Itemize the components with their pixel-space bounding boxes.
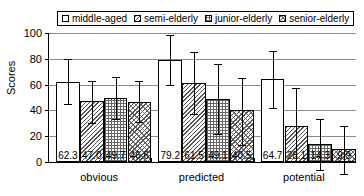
bar-value-label: 40.5 — [230, 150, 254, 161]
x-axis-label-obvious: obvious — [48, 172, 150, 183]
y-tick-mark — [45, 162, 49, 163]
error-bar-potential-junior-elderly — [320, 119, 321, 169]
y-axis-label: Scores — [6, 61, 17, 95]
error-bar-cap-upper — [269, 51, 277, 52]
error-bar-cap-upper — [292, 88, 300, 89]
error-bar-potential-middle-aged — [273, 51, 274, 108]
y-tick-label: 60 — [30, 79, 42, 90]
error-bar-cap-upper — [340, 126, 348, 127]
legend-item-semi-elderly[interactable]: semi-elderly — [134, 14, 198, 24]
error-bar-cap-upper — [214, 64, 222, 65]
legend-item-label: semi-elderly — [144, 14, 198, 24]
error-bar-obvious-senior-elderly — [139, 81, 140, 122]
error-bar-obvious-junior-elderly — [116, 77, 117, 120]
chart-legend: middle-agedsemi-elderlyjunior-elderlysen… — [57, 11, 354, 26]
error-bar-cap-upper — [88, 81, 96, 82]
error-bar-cap-lower — [88, 123, 96, 124]
legend-swatch-icon — [62, 15, 69, 22]
error-bar-cap-lower — [112, 119, 120, 120]
error-bar-cap-lower — [135, 122, 143, 123]
bar-value-label: 46.6 — [128, 150, 152, 161]
x-axis-separator — [151, 158, 152, 162]
bar-value-label: 79.2 — [158, 150, 182, 161]
legend-item-middle-aged[interactable]: middle-aged — [62, 14, 127, 24]
bar-value-label: 9.9 — [332, 150, 356, 161]
y-tick-label: 100 — [24, 28, 42, 39]
gridline — [49, 59, 356, 60]
error-bar-cap-lower — [269, 108, 277, 109]
plot-area: 020406080100 62.347.049.746.679.261.549.… — [48, 33, 356, 163]
error-bar-cap-upper — [135, 81, 143, 82]
bar-value-label: 49.7 — [104, 150, 128, 161]
bar-value-label: 47.0 — [80, 150, 104, 161]
error-bar-cap-lower — [64, 104, 72, 105]
bar-value-label: 61.5 — [182, 150, 206, 161]
error-bar-predicted-middle-aged — [170, 35, 171, 85]
error-bar-cap-lower — [292, 162, 300, 163]
legend-item-label: junior-elderly — [215, 14, 272, 24]
error-bar-cap-lower — [166, 85, 174, 86]
bar-value-label: 28.1 — [285, 150, 309, 161]
bar-chart: middle-agedsemi-elderlyjunior-elderlysen… — [0, 0, 364, 196]
bar-value-label: 62.3 — [56, 150, 80, 161]
x-axis-separator — [254, 158, 255, 162]
legend-swatch-icon — [279, 15, 286, 22]
error-bar-cap-lower — [214, 134, 222, 135]
error-bar-cap-upper — [112, 77, 120, 78]
y-tick-label: 0 — [36, 157, 42, 168]
x-axis-label-predicted: predicted — [150, 172, 252, 183]
error-bar-cap-upper — [238, 78, 246, 79]
y-tick-label: 20 — [30, 131, 42, 142]
x-axis-label-potential: potential — [253, 172, 355, 183]
bar-value-label: 14.3 — [308, 150, 332, 161]
bar-value-label: 64.7 — [261, 150, 285, 161]
legend-item-junior-elderly[interactable]: junior-elderly — [205, 14, 272, 24]
legend-item-label: middle-aged — [72, 14, 127, 24]
error-bar-cap-upper — [190, 52, 198, 53]
error-bar-obvious-semi-elderly — [92, 81, 93, 123]
error-bar-predicted-senior-elderly — [242, 78, 243, 145]
error-bar-obvious-middle-aged — [68, 59, 69, 104]
y-tick-label: 80 — [30, 53, 42, 64]
error-bar-predicted-junior-elderly — [218, 64, 219, 134]
error-bar-cap-lower — [238, 145, 246, 146]
error-bar-cap-upper — [64, 59, 72, 60]
error-bar-predicted-semi-elderly — [194, 52, 195, 114]
error-bar-cap-upper — [316, 119, 324, 120]
error-bar-cap-upper — [166, 35, 174, 36]
error-bar-cap-lower — [190, 114, 198, 115]
legend-swatch-icon — [205, 15, 212, 22]
legend-swatch-icon — [134, 15, 141, 22]
y-tick-label: 40 — [30, 105, 42, 116]
gridline — [49, 33, 356, 34]
legend-item-senior-elderly[interactable]: senior-elderly — [279, 14, 349, 24]
legend-item-label: senior-elderly — [289, 14, 349, 24]
bar-value-label: 49.1 — [206, 150, 230, 161]
